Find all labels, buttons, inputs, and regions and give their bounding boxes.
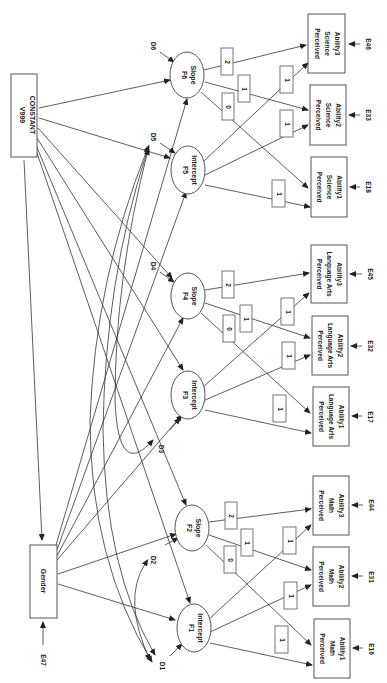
path-diagram: V999 CONSTANT Gender E47 F6 Slope F5 Int… (0, 0, 387, 683)
svg-text:Ability2: Ability2 (337, 565, 345, 589)
svg-text:1: 1 (284, 122, 291, 126)
svg-text:Science: Science (326, 175, 333, 200)
svg-text:Perceived: Perceived (315, 100, 322, 131)
svg-text:D4: D4 (150, 262, 157, 271)
loading-boxes: 2 1 0 1 1 1 2 1 0 1 1 1 2 1 0 1 (221, 48, 297, 653)
svg-text:Slope: Slope (190, 286, 198, 305)
svg-text:Language Arts: Language Arts (326, 323, 334, 369)
svg-text:F2: F2 (186, 524, 193, 532)
svg-text:Perceived: Perceived (317, 330, 324, 361)
svg-text:E46: E46 (365, 38, 372, 50)
factor-F6: F6 Slope (170, 52, 204, 98)
svg-text:Ability2: Ability2 (334, 103, 342, 127)
svg-text:Perceived: Perceived (316, 259, 323, 290)
indicator-la-ability3: Perceived Language Arts Ability3 E45 (311, 245, 374, 303)
svg-text:Ability1: Ability1 (335, 175, 343, 199)
svg-text:Slope: Slope (194, 518, 202, 537)
svg-text:0: 0 (227, 558, 234, 562)
factor-F5: F5 Intercept (171, 146, 205, 194)
svg-text:Math: Math (328, 498, 335, 513)
indicator-science-ability1: Perceived Science Ability1 E18 (311, 157, 372, 217)
svg-text:D1: D1 (159, 662, 166, 671)
svg-text:Perceived: Perceived (316, 172, 323, 203)
svg-text:F3: F3 (182, 391, 189, 399)
svg-text:E16: E16 (368, 643, 375, 655)
indicator-la-ability2: Perceived Language Arts Ability2 E32 (312, 316, 374, 375)
svg-text:2: 2 (224, 60, 231, 64)
svg-text:Language Arts: Language Arts (327, 394, 335, 440)
svg-text:D6: D6 (150, 42, 157, 51)
svg-text:0: 0 (225, 105, 232, 109)
svg-text:1: 1 (244, 541, 251, 545)
svg-text:Slope: Slope (189, 65, 197, 84)
svg-text:Perceived: Perceived (319, 633, 326, 664)
svg-text:Perceived: Perceived (318, 401, 325, 432)
svg-text:1: 1 (285, 310, 292, 314)
indicator-math-ability3: Perceived Math Ability3 E44 (313, 476, 375, 535)
svg-text:Intercept: Intercept (196, 613, 204, 643)
gender-error-label: E47 (40, 654, 47, 666)
factor-F3: F3 Intercept (171, 371, 205, 419)
svg-text:1: 1 (241, 87, 248, 91)
svg-text:Science: Science (324, 31, 331, 56)
svg-text:Language Arts: Language Arts (325, 251, 333, 297)
svg-text:1: 1 (288, 594, 295, 598)
svg-text:E17: E17 (367, 411, 374, 423)
svg-text:F4: F4 (182, 292, 189, 300)
gender-node: Gender E47 (30, 545, 57, 666)
svg-text:E45: E45 (367, 268, 374, 280)
factor-F1: F1 Intercept (177, 604, 211, 652)
svg-text:D2: D2 (150, 556, 157, 565)
svg-text:Intercept: Intercept (190, 155, 198, 185)
svg-text:Ability3: Ability3 (337, 494, 345, 518)
svg-text:F1: F1 (188, 624, 195, 632)
indicator-science-ability2: Perceived Science Ability2 E33 (310, 85, 372, 145)
svg-text:Ability3: Ability3 (335, 262, 343, 286)
svg-text:E18: E18 (365, 181, 372, 193)
svg-text:Ability3: Ability3 (333, 32, 341, 56)
svg-text:Ability1: Ability1 (338, 637, 346, 661)
factor-F4: F4 Slope (171, 273, 205, 319)
constant-node: V999 CONSTANT (11, 74, 37, 157)
svg-text:F5: F5 (182, 166, 189, 174)
svg-text:Science: Science (325, 103, 332, 128)
svg-text:Perceived: Perceived (318, 490, 325, 521)
svg-text:1: 1 (287, 539, 294, 543)
svg-text:1: 1 (243, 317, 250, 321)
svg-text:Ability1: Ability1 (337, 405, 345, 429)
svg-text:Math: Math (328, 569, 335, 584)
svg-text:Perceived: Perceived (314, 28, 321, 59)
svg-text:1: 1 (276, 192, 283, 196)
indicator-science-ability3: Perceived Science Ability3 E46 (308, 14, 372, 73)
svg-text:0: 0 (226, 327, 233, 331)
svg-text:Intercept: Intercept (190, 380, 198, 410)
svg-text:1: 1 (284, 78, 291, 82)
svg-text:E44: E44 (368, 499, 375, 511)
svg-text:D3: D3 (158, 445, 165, 454)
factor-F2: F2 Slope (175, 505, 209, 551)
svg-text:2: 2 (228, 514, 235, 518)
svg-text:F6: F6 (181, 71, 188, 79)
svg-text:Math: Math (329, 641, 336, 656)
svg-text:2: 2 (225, 283, 232, 287)
constant-label-2: CONSTANT (29, 96, 36, 135)
svg-text:E31: E31 (368, 571, 375, 583)
indicator-math-ability1: Perceived Math Ability1 E16 (314, 619, 375, 678)
indicator-la-ability1: Perceived Language Arts Ability1 E17 (313, 387, 374, 446)
svg-text:Perceived: Perceived (318, 561, 325, 592)
disturbance-labels: D6 D5 D4 D3 D2 D1 (150, 42, 166, 671)
svg-text:1: 1 (279, 638, 286, 642)
svg-text:D5: D5 (150, 133, 157, 142)
svg-text:E33: E33 (365, 109, 372, 121)
svg-text:Ability2: Ability2 (336, 334, 344, 358)
constant-label-1: V999 (19, 107, 26, 123)
svg-text:1: 1 (286, 354, 293, 358)
svg-text:E32: E32 (367, 340, 374, 352)
svg-text:1: 1 (277, 407, 284, 411)
indicator-math-ability2: Perceived Math Ability2 E31 (313, 547, 375, 606)
gender-label: Gender (40, 569, 47, 594)
